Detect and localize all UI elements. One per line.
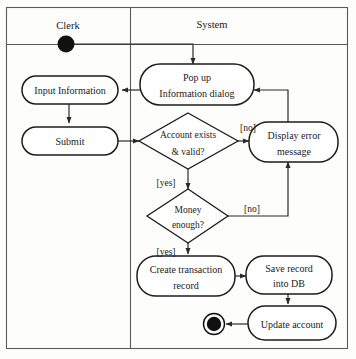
- decision-money-enough-shape: [147, 189, 228, 243]
- action-display-error-message[interactable]: Display error message: [249, 122, 338, 162]
- decision-account-exists-valid-label-line2: & valid?: [172, 147, 205, 157]
- action-popup-information-dialog-label-line1: Pop up: [183, 72, 211, 83]
- action-create-transaction-record[interactable]: Create transaction record: [137, 256, 235, 296]
- action-display-error-message-label-line2: message: [277, 146, 311, 157]
- final-node-core: [207, 317, 221, 331]
- initial-node: [58, 36, 75, 53]
- guard-label-account-no: [no]: [240, 123, 256, 133]
- decision-account-exists-valid-shape: [139, 113, 238, 169]
- activity-diagram-canvas: Clerk System: [0, 0, 356, 359]
- action-create-transaction-record-label-line1: Create transaction: [150, 264, 222, 275]
- decision-account-exists-valid-label-line1: Account exists: [160, 130, 217, 140]
- edge-start-to-popup: [74, 44, 193, 64]
- action-submit[interactable]: Submit: [22, 127, 118, 155]
- action-popup-information-dialog-label-line2: Information dialog: [159, 88, 234, 99]
- decision-money-enough-label-line2: enough?: [172, 220, 204, 230]
- action-input-information[interactable]: Input Information: [22, 76, 118, 104]
- action-update-account-label: Update account: [261, 319, 324, 330]
- edge-display-error-to-popup: [254, 90, 288, 122]
- lane-title-system: System: [197, 19, 228, 30]
- swimlane-frame: [7, 8, 348, 349]
- action-submit-label: Submit: [56, 136, 85, 147]
- guard-label-money-no: [no]: [244, 204, 260, 214]
- action-create-transaction-record-label-line2: record: [173, 280, 199, 291]
- guard-label-money-yes: [yes]: [157, 247, 176, 257]
- final-node: [204, 314, 225, 335]
- action-input-information-label: Input Information: [34, 85, 105, 96]
- action-save-record-into-db-label-line1: Save record: [265, 263, 312, 274]
- decision-money-enough[interactable]: Money enough?: [147, 189, 228, 243]
- diagram-outer-border: [7, 8, 348, 349]
- lane-title-clerk: Clerk: [56, 20, 80, 31]
- action-save-record-into-db[interactable]: Save record into DB: [246, 256, 332, 294]
- diagram-svg: Clerk System: [0, 0, 356, 359]
- action-update-account[interactable]: Update account: [248, 306, 336, 340]
- action-display-error-message-label-line1: Display error: [267, 130, 321, 141]
- action-popup-information-dialog[interactable]: Pop up Information dialog: [140, 64, 254, 105]
- guard-label-account-yes: [yes]: [157, 178, 176, 188]
- decision-account-exists-valid[interactable]: Account exists & valid?: [139, 113, 238, 169]
- decision-money-enough-label-line1: Money: [175, 205, 202, 215]
- action-save-record-into-db-label-line2: into DB: [273, 278, 305, 289]
